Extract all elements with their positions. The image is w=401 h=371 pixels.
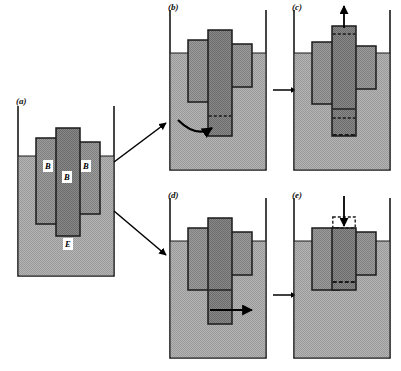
panel-label-c: (c) xyxy=(292,2,302,12)
panel-label-b: (b) xyxy=(168,2,179,12)
medium-label: E xyxy=(63,238,73,250)
block-label-right: B xyxy=(81,160,91,172)
block-center-c xyxy=(332,26,356,136)
panel-e: (e) xyxy=(286,192,398,370)
block-center-b xyxy=(208,30,232,136)
panel-d: (d) xyxy=(162,192,274,370)
block-center-d xyxy=(208,218,232,324)
panel-label-d: (d) xyxy=(168,190,179,200)
panel-b: (b) xyxy=(162,4,274,182)
panel-label-a: (a) xyxy=(16,96,27,106)
block-label-left: B xyxy=(43,160,53,172)
block-center-e xyxy=(332,228,356,290)
panel-a: (a) B B B E xyxy=(10,98,122,316)
panel-c: (c) xyxy=(286,4,398,182)
block-label-center: B xyxy=(62,171,72,183)
panel-label-e: (e) xyxy=(292,190,302,200)
